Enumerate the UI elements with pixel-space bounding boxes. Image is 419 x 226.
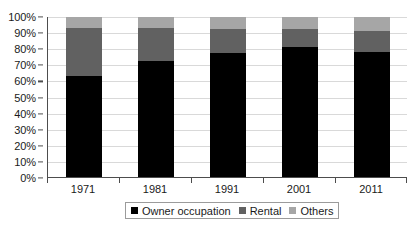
bar-group: [210, 17, 246, 177]
bar-segment-rental: [210, 29, 246, 53]
y-tick-mark: [38, 16, 43, 17]
y-tick-mark: [38, 97, 43, 98]
y-tick-mark: [38, 161, 43, 162]
bar-segment-rental: [66, 28, 102, 76]
y-tick-mark: [38, 81, 43, 82]
bar-stack: [282, 17, 318, 177]
y-tick-label: 10%: [14, 156, 36, 168]
x-tick-label: 1971: [71, 183, 95, 195]
y-tick-label: 60%: [14, 75, 36, 87]
y-tick-mark: [38, 49, 43, 50]
y-tick-mark: [38, 177, 43, 178]
plot-area: [47, 17, 407, 178]
y-tick-mark: [38, 65, 43, 66]
bar-segment-others: [354, 17, 390, 31]
y-tick-label: 50%: [14, 92, 36, 104]
legend-swatch-icon: [239, 207, 246, 214]
x-tick-label: 1981: [143, 183, 167, 195]
legend-swatch-icon: [289, 207, 296, 214]
bar-segment-others: [138, 17, 174, 28]
chart-legend: Owner occupationRentalOthers: [125, 202, 339, 219]
x-axis: 19711981199120012011: [47, 183, 407, 199]
bar-segment-others: [282, 17, 318, 29]
stacked-bar-chart: 0%10%20%30%40%50%60%70%80%90%100% 197119…: [0, 0, 419, 226]
y-tick-label: 80%: [14, 43, 36, 55]
x-tick-label: 2001: [287, 183, 311, 195]
bar-group: [66, 17, 102, 177]
bar-segment-owner-occupation: [138, 61, 174, 177]
bar-segment-owner-occupation: [354, 52, 390, 177]
y-axis: 0%10%20%30%40%50%60%70%80%90%100%: [0, 17, 43, 178]
bar-segment-others: [210, 17, 246, 29]
bars-layer: [48, 17, 407, 177]
y-tick-label: 0%: [20, 172, 36, 184]
y-tick-mark: [38, 145, 43, 146]
y-tick-label: 40%: [14, 108, 36, 120]
legend-item-others[interactable]: Others: [289, 205, 333, 217]
bar-segment-owner-occupation: [66, 76, 102, 177]
y-tick-label: 100%: [8, 11, 36, 23]
bar-segment-rental: [354, 31, 390, 52]
y-tick-mark: [38, 33, 43, 34]
bar-stack: [66, 17, 102, 177]
x-tick-label: 1991: [215, 183, 239, 195]
legend-item-rental[interactable]: Rental: [239, 205, 282, 217]
bar-segment-rental: [282, 29, 318, 47]
bar-stack: [138, 17, 174, 177]
legend-item-owner-occupation[interactable]: Owner occupation: [131, 205, 231, 217]
legend-label: Rental: [250, 205, 282, 217]
bar-segment-owner-occupation: [210, 53, 246, 177]
bar-stack: [354, 17, 390, 177]
y-tick-label: 30%: [14, 124, 36, 136]
legend-label: Others: [300, 205, 333, 217]
y-tick-label: 70%: [14, 59, 36, 71]
bar-segment-owner-occupation: [282, 47, 318, 177]
legend-label: Owner occupation: [142, 205, 231, 217]
bar-segment-others: [66, 17, 102, 28]
y-tick-mark: [38, 129, 43, 130]
y-tick-label: 90%: [14, 27, 36, 39]
bar-group: [354, 17, 390, 177]
bar-stack: [210, 17, 246, 177]
bar-group: [138, 17, 174, 177]
bar-group: [282, 17, 318, 177]
legend-swatch-icon: [131, 207, 138, 214]
bar-segment-rental: [138, 28, 174, 61]
y-tick-mark: [38, 113, 43, 114]
y-tick-label: 20%: [14, 140, 36, 152]
x-tick-label: 2011: [359, 183, 383, 195]
